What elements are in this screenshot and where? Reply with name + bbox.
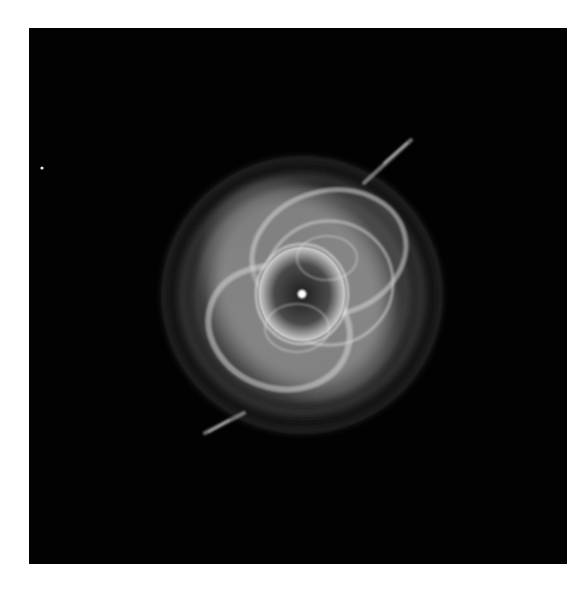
background-star [40,166,43,169]
nebula-photo [29,28,567,564]
nebula-illustration [29,28,567,564]
